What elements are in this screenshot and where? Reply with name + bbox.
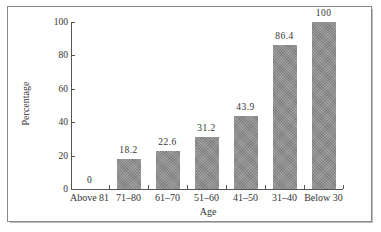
y-tick-label: 40 bbox=[44, 117, 68, 127]
x-tick bbox=[343, 185, 344, 189]
bar bbox=[273, 45, 297, 189]
bar-value-label: 31.2 bbox=[187, 123, 227, 133]
x-tick-label: Below 30 bbox=[301, 192, 347, 203]
x-tick bbox=[148, 185, 149, 189]
y-tick-label: 20 bbox=[44, 151, 68, 161]
bar bbox=[234, 116, 258, 189]
bar bbox=[312, 22, 336, 189]
y-tick-label: 60 bbox=[44, 84, 68, 94]
x-axis bbox=[71, 189, 343, 190]
bar-value-label: 100 bbox=[304, 8, 344, 18]
y-tick bbox=[71, 156, 75, 157]
y-axis-title: Percentage bbox=[20, 67, 31, 141]
y-tick bbox=[71, 22, 75, 23]
y-tick-label: 80 bbox=[44, 50, 68, 60]
x-tick bbox=[187, 185, 188, 189]
y-tick-label: 0 bbox=[44, 184, 68, 194]
bar-value-label: 86.4 bbox=[265, 31, 305, 41]
x-tick bbox=[226, 185, 227, 189]
bar-value-label: 22.6 bbox=[148, 137, 188, 147]
x-tick bbox=[304, 185, 305, 189]
bar bbox=[156, 151, 180, 189]
y-tick bbox=[71, 55, 75, 56]
bar-value-label: 43.9 bbox=[226, 102, 266, 112]
y-axis bbox=[71, 22, 72, 189]
bar-value-label: 18.2 bbox=[109, 145, 149, 155]
bar bbox=[195, 137, 219, 189]
y-tick-label: 100 bbox=[44, 17, 68, 27]
bar bbox=[117, 159, 141, 189]
x-axis-title: Age bbox=[190, 206, 226, 217]
x-tick bbox=[265, 185, 266, 189]
x-tick bbox=[109, 185, 110, 189]
bar-value-label: 0 bbox=[70, 175, 110, 185]
y-tick bbox=[71, 189, 75, 190]
y-tick bbox=[71, 89, 75, 90]
y-tick bbox=[71, 122, 75, 123]
